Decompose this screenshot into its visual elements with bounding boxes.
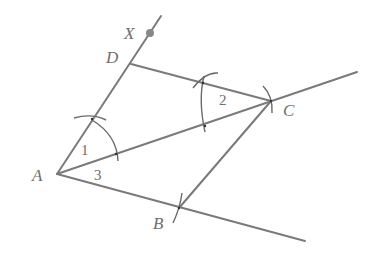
intersection-dot [202,82,204,84]
label-angle-2: 2 [219,92,227,108]
point-x-dot [146,29,154,37]
cross-mark-ax [74,116,106,120]
geometry-diagram: A B C D X 1 2 3 [0,0,378,254]
intersection-dot [91,118,93,120]
ray-ax [57,16,161,174]
label-d: D [105,48,119,67]
label-c: C [283,101,295,120]
label-a: A [31,166,43,185]
ray-ac [57,72,357,174]
intersection-dot [115,153,117,155]
label-angle-1: 1 [81,142,89,158]
intersection-dot [270,100,272,102]
intersection-dot [204,125,206,127]
label-x: X [123,24,135,43]
label-b: B [153,214,164,233]
ray-ab [57,174,305,241]
intersection-dot [178,207,180,209]
label-angle-3: 3 [94,167,102,183]
